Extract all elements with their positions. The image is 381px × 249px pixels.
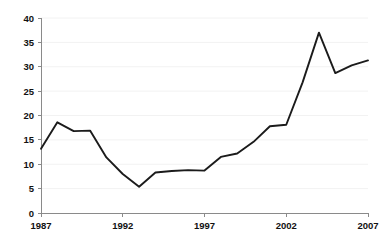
x-axis-tick-label: 1987 <box>30 220 51 231</box>
y-axis-tick-label: 0 <box>29 208 34 219</box>
x-axis-tick-labels: 19871992199720022007 <box>30 220 378 231</box>
y-axis-tick-label: 20 <box>23 110 34 121</box>
data-series-line <box>41 33 368 187</box>
y-axis-tick-labels: 0510152025303540 <box>23 13 34 219</box>
y-axis-tick-label: 15 <box>23 134 34 145</box>
chart-canvas: 0510152025303540 19871992199720022007 <box>0 0 381 249</box>
y-axis-tick-label: 40 <box>23 13 34 24</box>
line-chart: 0510152025303540 19871992199720022007 <box>0 0 381 249</box>
y-axis-tick-label: 10 <box>23 159 34 170</box>
y-axis-tick-label: 35 <box>23 37 34 48</box>
x-axis-tick-label: 2007 <box>357 220 378 231</box>
x-axis-tick-label: 1997 <box>194 220 215 231</box>
y-axis-tick-label: 25 <box>23 86 34 97</box>
x-axis-ticks <box>41 213 368 217</box>
x-axis-tick-label: 1992 <box>112 220 133 231</box>
y-axis-tick-label: 5 <box>29 183 35 194</box>
y-axis-tick-label: 30 <box>23 61 34 72</box>
x-axis-tick-label: 2002 <box>276 220 297 231</box>
gridlines <box>41 18 368 189</box>
